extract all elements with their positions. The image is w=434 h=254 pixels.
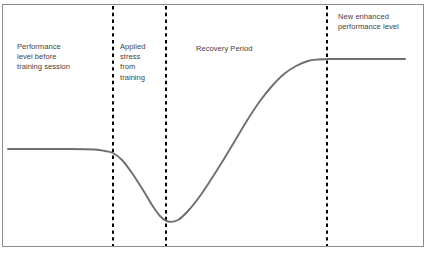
phase-label-new-enhanced-performance: New enhanced performance level bbox=[338, 12, 424, 32]
diagram-canvas: Performance level before training sessio… bbox=[0, 0, 434, 254]
phase-label-recovery-period: Recovery Period bbox=[196, 44, 316, 54]
phase-label-baseline-performance: Performance level before training sessio… bbox=[17, 42, 109, 73]
phase-label-applied-stress: Applied stress from training bbox=[120, 42, 164, 83]
supercompensation-curve-chart bbox=[0, 0, 434, 254]
performance-curve-group bbox=[8, 59, 405, 222]
curve-performance-level bbox=[8, 59, 405, 222]
